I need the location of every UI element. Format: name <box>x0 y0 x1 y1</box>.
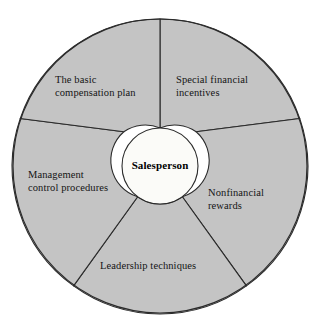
wedge-label-compensation: The basic compensation plan <box>55 73 165 99</box>
salesforce-motivation-wheel-diagram: The basic compensation plan Special fina… <box>0 0 315 332</box>
wedge-label-leadership: Leadership techniques <box>100 259 230 272</box>
wedge-label-management: Management control procedures <box>28 168 148 194</box>
wedge-label-nonfinancial: Nonfinancial rewards <box>208 186 308 212</box>
hub-label: Salesperson <box>110 159 210 171</box>
wedge-label-incentives: Special financial incentives <box>176 73 286 99</box>
wheel-labels-layer: The basic compensation plan Special fina… <box>0 0 315 332</box>
